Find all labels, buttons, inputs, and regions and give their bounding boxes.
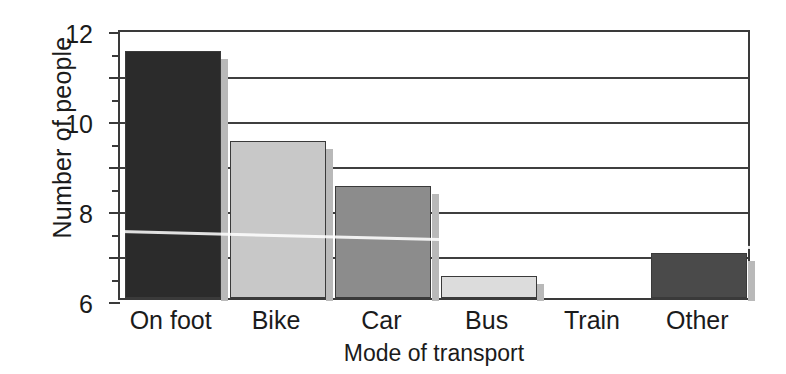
y-tick-minor-5 xyxy=(112,190,120,192)
y-tick-minor-7 xyxy=(112,145,120,147)
bar xyxy=(441,276,537,299)
bar-shadow xyxy=(432,194,439,302)
y-tick-major-12: 12 xyxy=(109,32,120,34)
y-tick-minor-11 xyxy=(112,55,120,57)
plot-area: 024681012 xyxy=(118,30,750,300)
y-tick-major-2: 2 xyxy=(109,257,120,259)
x-tick-label: On foot xyxy=(118,306,223,335)
y-tick-minor-9 xyxy=(112,100,120,102)
y-tick-major-6: 6 xyxy=(109,167,120,169)
x-tick-label: Car xyxy=(329,306,434,335)
y-tick-major-0: 0 xyxy=(109,302,120,304)
bar-shadow xyxy=(537,284,544,302)
y-tick-label-10: 10 xyxy=(65,110,93,139)
y-tick-label-8: 8 xyxy=(79,200,93,229)
y-tick-major-4: 4 xyxy=(109,212,120,214)
x-tick-label: Bus xyxy=(434,306,539,335)
y-tick-label-6: 6 xyxy=(79,290,93,319)
y-tick-label-12: 12 xyxy=(65,20,93,49)
bar-chart-figure: Number of people 024681012 On footBikeCa… xyxy=(0,0,786,374)
x-axis-title: Mode of transport xyxy=(118,340,750,367)
x-tick-label: Other xyxy=(645,306,750,335)
bar xyxy=(651,253,747,298)
x-tick-label: Bike xyxy=(223,306,328,335)
bar xyxy=(335,186,431,299)
bar-shadow xyxy=(748,261,755,301)
bar-shadow xyxy=(221,59,228,302)
y-tick-major-8: 8 xyxy=(109,122,120,124)
y-tick-minor-1 xyxy=(112,280,120,282)
bar-shadow xyxy=(326,149,333,302)
bar xyxy=(230,141,326,299)
bar xyxy=(125,51,221,299)
y-tick-minor-3 xyxy=(112,235,120,237)
x-tick-label: Train xyxy=(539,306,644,335)
y-tick-major-10: 10 xyxy=(109,77,120,79)
